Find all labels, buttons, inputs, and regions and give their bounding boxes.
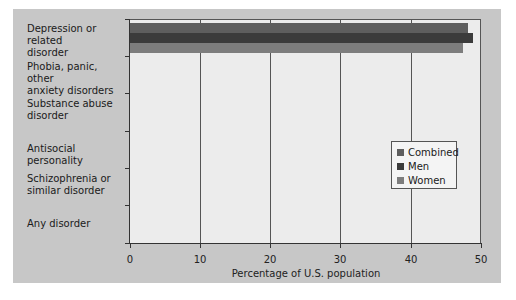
- label-line: Schizophrenia or: [27, 173, 123, 185]
- y-tick: [125, 93, 130, 94]
- x-axis-title: Percentage of U.S. population: [232, 268, 381, 279]
- x-tick-label: 30: [334, 254, 347, 265]
- y-tick: [125, 19, 130, 20]
- legend: Combined Men Women: [391, 141, 457, 189]
- category-label-any: Any disorder: [27, 218, 123, 230]
- category-label-depression: Depression or related disorder: [27, 23, 123, 59]
- legend-item-men: Men: [397, 160, 429, 172]
- label-line: anxiety disorders: [27, 85, 123, 97]
- x-tick: [411, 243, 412, 248]
- y-tick: [125, 131, 130, 132]
- y-tick: [125, 56, 130, 57]
- category-label-anxiety: Phobia, panic, other anxiety disorders: [27, 61, 123, 97]
- x-tick: [481, 243, 482, 248]
- x-tick: [340, 243, 341, 248]
- label-line: Substance abuse: [27, 98, 123, 110]
- x-tick-label: 40: [405, 254, 418, 265]
- legend-item-combined: Combined: [397, 146, 459, 158]
- label-line: Any disorder: [27, 218, 123, 230]
- legend-label: Combined: [408, 147, 459, 158]
- x-tick-label: 10: [194, 254, 207, 265]
- category-label-substance: Substance abuse disorder: [27, 98, 123, 122]
- legend-label: Men: [408, 161, 429, 172]
- label-line: Phobia, panic, other: [27, 61, 123, 85]
- bar-combined: [130, 23, 468, 33]
- bar-women: [130, 43, 463, 53]
- x-tick-label: 0: [127, 254, 133, 265]
- legend-swatch: [397, 163, 404, 170]
- label-line: similar disorder: [27, 185, 123, 197]
- x-tick: [270, 243, 271, 248]
- x-axis: [129, 243, 482, 244]
- category-label-schizophrenia: Schizophrenia or similar disorder: [27, 173, 123, 197]
- x-tick-label: 20: [264, 254, 277, 265]
- legend-item-women: Women: [397, 174, 446, 186]
- legend-label: Women: [408, 175, 446, 186]
- legend-swatch: [397, 149, 404, 156]
- label-line: Antisocial personality: [27, 143, 123, 167]
- x-tick-label: 50: [475, 254, 488, 265]
- y-tick: [125, 168, 130, 169]
- y-tick: [125, 205, 130, 206]
- label-line: Depression or related: [27, 23, 123, 47]
- x-tick: [200, 243, 201, 248]
- label-line: disorder: [27, 47, 123, 59]
- x-tick: [130, 243, 131, 248]
- bar-men: [130, 33, 473, 43]
- category-label-antisocial: Antisocial personality: [27, 143, 123, 167]
- legend-swatch: [397, 177, 404, 184]
- label-line: disorder: [27, 110, 123, 122]
